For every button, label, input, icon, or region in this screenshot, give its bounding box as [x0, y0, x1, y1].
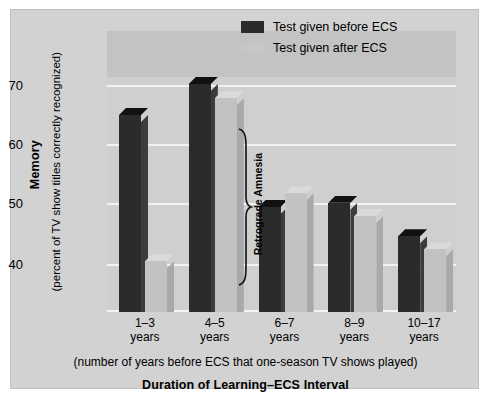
x-category-label-1: 1–3years	[105, 316, 185, 344]
x-category-line: years	[245, 330, 325, 344]
x-category-label-4: 8–9years	[314, 316, 394, 344]
bar-before-ecs-group-5	[398, 236, 420, 312]
bar-top-3d	[424, 242, 453, 249]
bar-face	[424, 249, 446, 312]
chart-figure: Memory (percent of TV show titles correc…	[10, 9, 479, 389]
x-category-line: 4–5	[175, 316, 255, 330]
bar-face	[145, 261, 167, 312]
x-category-line: 6–7	[245, 316, 325, 330]
dark-swatch-icon	[241, 21, 264, 33]
x-axis-subtitle: (number of years before ECS that one-sea…	[11, 355, 480, 369]
legend-item-before: Test given before ECS	[241, 18, 397, 36]
x-category-line: 1–3	[105, 316, 185, 330]
y-axis-title: Memory	[29, 140, 42, 189]
bar-top-3d	[328, 196, 357, 203]
bar-face	[215, 98, 237, 312]
y-tick-label-40: 40	[0, 257, 23, 272]
bar-face	[189, 84, 211, 312]
x-category-line: 10–17	[384, 316, 464, 330]
x-category-line: years	[384, 330, 464, 344]
bar-before-ecs-group-1	[119, 115, 141, 312]
legend-item-after: Test given after ECS	[241, 39, 397, 57]
bar-top-3d	[145, 254, 174, 261]
bar-top-3d	[215, 91, 244, 98]
bar-after-ecs-group-3	[285, 193, 307, 312]
bar-top-3d	[398, 229, 427, 236]
x-category-label-2: 4–5years	[175, 316, 255, 344]
bar-side-3d	[446, 249, 453, 312]
legend-label-after: Test given after ECS	[273, 41, 387, 55]
bar-side-3d	[167, 261, 174, 312]
retrograde-amnesia-annotation: Retrograde Amnesia	[237, 127, 283, 287]
plot-area: Retrograde Amnesia	[107, 31, 456, 312]
annotation-label: Retrograde Amnesia	[253, 153, 264, 255]
bar-face	[285, 193, 307, 312]
chart-legend: Test given before ECS Test given after E…	[241, 18, 397, 60]
bar-face	[328, 203, 350, 312]
x-axis-title: Duration of Learning–ECS Interval	[11, 378, 480, 392]
x-category-line: 8–9	[314, 316, 394, 330]
bar-face	[354, 216, 376, 312]
light-swatch-icon	[241, 42, 264, 54]
x-axis-category-labels: 1–3years4–5years6–7years8–9years10–17yea…	[107, 316, 456, 350]
bar-top-3d	[285, 186, 314, 193]
bar-side-3d	[376, 216, 383, 312]
bar-before-ecs-group-2	[189, 84, 211, 312]
x-category-line: years	[105, 330, 185, 344]
bar-side-3d	[307, 193, 314, 312]
bar-before-ecs-group-4	[328, 203, 350, 312]
brace-icon	[237, 127, 253, 287]
bar-top-3d	[119, 108, 148, 115]
legend-label-before: Test given before ECS	[273, 20, 397, 34]
x-category-label-3: 6–7years	[245, 316, 325, 344]
bar-after-ecs-group-1	[145, 261, 167, 312]
bar-top-3d	[189, 77, 218, 84]
bar-face	[119, 115, 141, 312]
y-tick-label-70: 70	[0, 78, 23, 93]
x-category-label-5: 10–17years	[384, 316, 464, 344]
y-tick-label-60: 60	[0, 137, 23, 152]
x-category-line: years	[175, 330, 255, 344]
bar-after-ecs-group-5	[424, 249, 446, 312]
y-tick-label-50: 50	[0, 196, 23, 211]
bar-face	[398, 236, 420, 312]
x-category-line: years	[314, 330, 394, 344]
bar-top-3d	[354, 209, 383, 216]
bar-after-ecs-group-2	[215, 98, 237, 312]
bar-after-ecs-group-4	[354, 216, 376, 312]
y-axis-subtitle: (percent of TV show titles correctly rec…	[51, 52, 63, 291]
